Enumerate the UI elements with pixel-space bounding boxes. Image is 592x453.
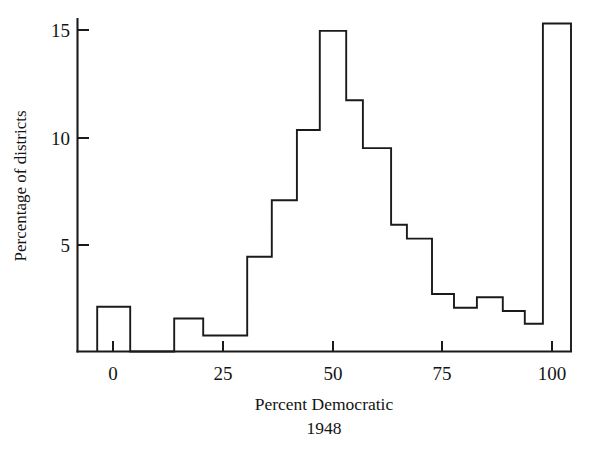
x-ticklabel-50: 50 — [324, 363, 343, 384]
y-axis-label: Percentage of districts — [11, 110, 30, 261]
histogram-outline — [97, 24, 571, 352]
histogram-svg: 15 10 5 0 25 50 75 100 Percent Democrati… — [0, 0, 592, 453]
x-axis-label-year: 1948 — [307, 418, 342, 438]
histogram-figure: 15 10 5 0 25 50 75 100 Percent Democrati… — [0, 0, 592, 453]
x-ticklabel-0: 0 — [108, 363, 118, 384]
x-ticklabel-75: 75 — [433, 363, 452, 384]
y-ticklabel-5: 5 — [61, 235, 71, 256]
y-axis-ticks — [78, 30, 90, 245]
y-ticklabel-15: 15 — [51, 20, 70, 41]
x-ticklabel-100: 100 — [538, 363, 567, 384]
x-axis-label: Percent Democratic — [255, 394, 394, 414]
x-ticklabel-25: 25 — [214, 363, 233, 384]
y-ticklabel-10: 10 — [51, 128, 70, 149]
x-axis-ticks — [113, 341, 552, 352]
